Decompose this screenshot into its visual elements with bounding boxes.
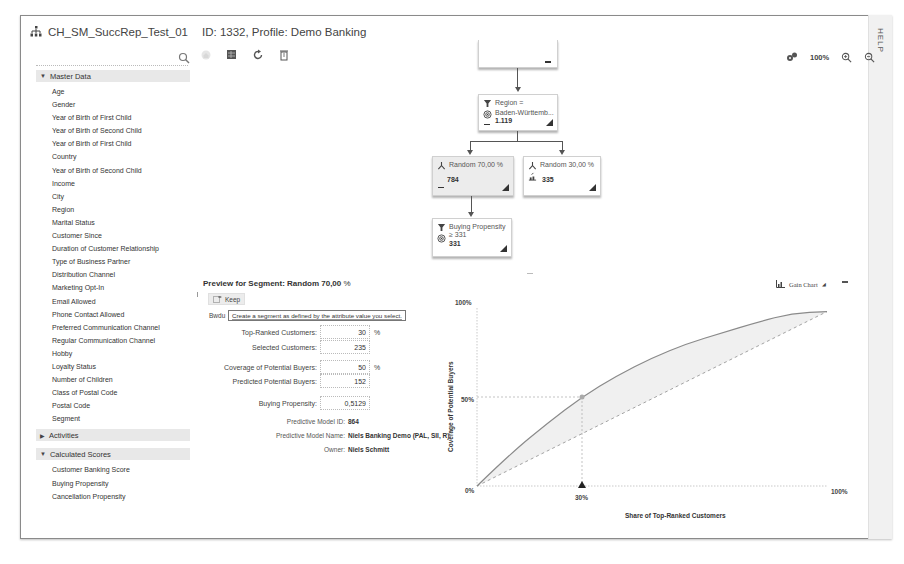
node-label: Buying Propensity [449, 223, 505, 230]
help-panel[interactable] [868, 15, 892, 539]
hierarchy-icon [30, 26, 42, 38]
node-count: 335 [542, 176, 554, 183]
window-title: CH_SM_SuccRep_Test_01 [48, 26, 188, 38]
search-input[interactable] [36, 52, 188, 66]
help-label[interactable]: HELP [876, 28, 885, 53]
unit-label: % [374, 364, 380, 371]
preview-title-text: Preview for Segment: Random 70,00 [203, 279, 341, 288]
sidebar-item[interactable]: Year of Birth of First Child [36, 137, 190, 150]
sidebar-item[interactable]: Segment [36, 412, 190, 425]
search-icon[interactable] [178, 52, 190, 64]
info-model-name: Predictive Model Name: Niels Banking Dem… [200, 432, 449, 439]
sidebar-item[interactable]: Buying Propensity [36, 477, 190, 490]
sidebar-item[interactable]: Customer Since [36, 229, 190, 242]
zoom-in-icon[interactable] [841, 52, 852, 63]
sidebar-item[interactable]: Gender [36, 98, 190, 111]
sidebar-item[interactable]: Income [36, 177, 190, 190]
splitter-handle[interactable] [527, 273, 533, 274]
sidebar-item[interactable]: Type of Business Partner [36, 255, 190, 268]
sidebar-item[interactable]: Postal Code [36, 399, 190, 412]
preview-title: Preview for Segment: Random 70,00 % [203, 279, 351, 288]
panel-marker [197, 292, 198, 297]
sidebar-item[interactable]: Region [36, 203, 190, 216]
caret-down-icon: ▼ [40, 451, 46, 457]
title-bar: CH_SM_SuccRep_Test_01 ID: 1332, Profile:… [30, 24, 366, 40]
collapse-icon[interactable] [438, 187, 444, 189]
resize-handle-icon[interactable] [500, 245, 507, 252]
zoom-out-icon[interactable] [864, 52, 875, 63]
node-count: 331 [449, 240, 461, 247]
sidebar-item[interactable]: Distribution Channel [36, 268, 190, 281]
keep-button[interactable]: Keep [208, 293, 245, 305]
sidebar-item[interactable]: Loyalty Status [36, 360, 190, 373]
field-label: Coverage of Potential Buyers: [200, 364, 320, 371]
group-label: Calculated Scores [50, 450, 111, 459]
x-tick-30: 30% [575, 494, 588, 501]
y-axis-title: Coverage of Potential Buyers [447, 361, 454, 452]
resize-handle-icon[interactable] [502, 184, 509, 191]
sidebar-item[interactable]: Year of Birth of Second Child [36, 164, 190, 177]
sidebar-item[interactable]: Number of Children [36, 373, 190, 386]
y-tick-100: 100% [455, 299, 472, 306]
resize-handle-icon[interactable] [589, 184, 596, 191]
sidebar-item[interactable]: Hobby [36, 347, 190, 360]
tree-connector [470, 141, 562, 142]
sidebar-item[interactable]: Marital Status [36, 216, 190, 229]
gain-chart[interactable] [430, 278, 850, 488]
field-coverage: Coverage of Potential Buyers: % [200, 360, 380, 374]
node-count: 784 [447, 176, 459, 183]
sidebar-item[interactable]: Email Allowed [36, 295, 190, 308]
top-ranked-input[interactable] [320, 325, 370, 339]
tree-node-buying-propensity[interactable]: Buying Propensity ≥ 331 331 [432, 218, 512, 257]
filter-icon [437, 223, 446, 232]
sidebar-item[interactable]: Country [36, 150, 190, 163]
group-activities[interactable]: ▶ Activities [36, 429, 190, 441]
sidebar-item[interactable]: Age [36, 85, 190, 98]
sidebar-item[interactable]: Marketing Opt-In [36, 281, 190, 294]
field-label: Buying Propensity: [200, 400, 320, 407]
tree-node-parent[interactable] [478, 40, 558, 68]
info-label: Owner: [200, 446, 348, 453]
sidebar-item[interactable]: City [36, 190, 190, 203]
refresh-icon[interactable] [252, 49, 264, 61]
resize-handle-icon[interactable] [546, 119, 553, 126]
x-axis-title: Share of Top-Ranked Customers [625, 512, 726, 519]
cutoff-label: Bwdu [209, 312, 225, 319]
sidebar-item[interactable]: Cancellation Propensity [36, 490, 190, 503]
collapse-icon[interactable] [484, 124, 490, 126]
coverage-input[interactable] [320, 360, 370, 374]
sidebar-item[interactable]: Regular Communication Channel [36, 334, 190, 347]
node-label: Random 70,00 % [449, 161, 503, 168]
selected-customers-input[interactable] [320, 340, 370, 354]
group-label: Activities [49, 431, 79, 440]
tree-node-random-70[interactable]: Random 70,00 % 784 [432, 156, 514, 196]
tree-connector [517, 68, 518, 88]
home-icon[interactable] [200, 49, 212, 61]
target-icon [483, 110, 492, 119]
tree-arrow [559, 150, 565, 155]
tree-node-random-30[interactable]: Random 30,00 % 335 [523, 156, 601, 196]
delete-icon[interactable] [278, 49, 290, 61]
field-buying-propensity: Buying Propensity: [200, 396, 370, 410]
buying-propensity-input[interactable] [320, 396, 370, 410]
settings-icon[interactable] [786, 51, 798, 63]
sidebar-item[interactable]: Duration of Customer Relationship [36, 242, 190, 255]
sidebar-item[interactable]: Year of Birth of First Child [36, 111, 190, 124]
sidebar-item[interactable]: Phone Contact Allowed [36, 308, 190, 321]
tooltip: Create a segment as defined by the attri… [228, 310, 406, 321]
sidebar-item[interactable]: Preferred Communication Channel [36, 321, 190, 334]
info-value: 864 [348, 418, 359, 425]
segment-icon[interactable] [226, 49, 238, 61]
sidebar-item[interactable]: Customer Banking Score [36, 463, 190, 476]
y-tick-50: 50% [461, 396, 474, 403]
sidebar-item[interactable]: Year of Birth of Second Child [36, 124, 190, 137]
tree-node-region[interactable]: Region = Baden-Württemb... 1.119 [478, 94, 558, 131]
predicted-buyers-input[interactable] [320, 374, 370, 388]
window-subtitle: ID: 1332, Profile: Demo Banking [202, 26, 366, 38]
group-calculated-scores[interactable]: ▼ Calculated Scores [36, 448, 190, 460]
group-master-data[interactable]: ▼ Master Data [36, 70, 190, 82]
sidebar-item[interactable]: Class of Postal Code [36, 386, 190, 399]
chart-icon [528, 172, 537, 181]
node-count: 1.119 [495, 117, 512, 124]
keep-label: Keep [225, 296, 240, 303]
